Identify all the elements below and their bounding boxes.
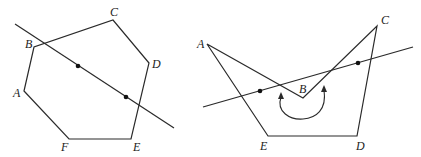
secant-line-left [15, 24, 174, 128]
point-right-1 [258, 89, 263, 94]
arc-arrowhead-left [278, 92, 284, 99]
label-right-C: C [381, 13, 390, 27]
label-left-B: B [25, 37, 33, 51]
arc-arrowhead-right [321, 85, 327, 92]
secant-line-right [203, 47, 413, 107]
label-left-D: D [151, 57, 161, 71]
label-right-D: D [355, 139, 365, 153]
point-left-2 [124, 95, 129, 100]
hexagon-outline [24, 20, 149, 139]
label-left-F: F [60, 140, 69, 154]
label-right-E: E [259, 139, 268, 153]
label-left-A: A [12, 86, 21, 100]
label-right-B: B [299, 82, 307, 96]
label-left-C: C [110, 5, 119, 19]
label-left-E: E [132, 140, 141, 154]
diagram-canvas: A B C D E F A B C D E [0, 0, 421, 157]
concave-pentagon-figure: A B C D E [196, 13, 413, 153]
point-right-2 [356, 61, 361, 66]
label-right-A: A [196, 37, 205, 51]
point-left-1 [76, 64, 81, 69]
convex-hexagon-figure: A B C D E F [12, 5, 174, 154]
